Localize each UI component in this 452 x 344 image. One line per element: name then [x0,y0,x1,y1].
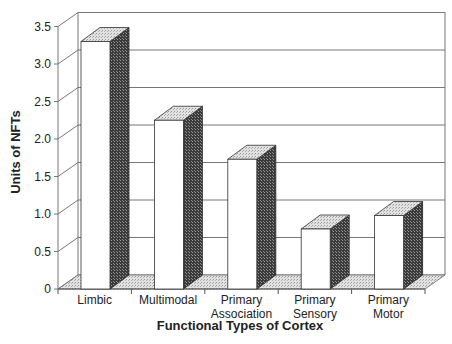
y-tick-label: 1.0 [34,207,51,221]
x-tick-label: Motor [373,307,404,321]
y-axis-title: Units of NFTs [8,110,23,194]
x-tick-label: Primary [221,293,262,307]
chart: 00.51.01.52.02.53.03.5 LimbicMultimodalP… [0,0,452,344]
y-tick-label: 2.5 [34,95,51,109]
x-axis-labels: LimbicMultimodalPrimaryAssociationPrimar… [58,289,425,321]
bar [228,145,276,289]
y-tick-label: 2.0 [34,132,51,146]
x-axis-title: Functional Types of Cortex [157,318,324,333]
y-tick-label: 1.5 [34,170,51,184]
y-tick-label: 3.5 [34,20,51,34]
bar [81,28,129,290]
bars [81,28,423,290]
x-tick-label: Multimodal [139,293,197,307]
y-tick-label: 0.5 [34,245,51,259]
bar [375,202,423,290]
y-tick-label: 0 [44,282,51,296]
x-tick-label: Primary [368,293,409,307]
x-tick-label: Primary [294,293,335,307]
y-tick-label: 3.0 [34,57,51,71]
bar [301,215,349,289]
y-axis: 00.51.01.52.02.53.03.5 [34,20,58,297]
x-tick-label: Limbic [77,293,112,307]
bar [154,106,202,289]
